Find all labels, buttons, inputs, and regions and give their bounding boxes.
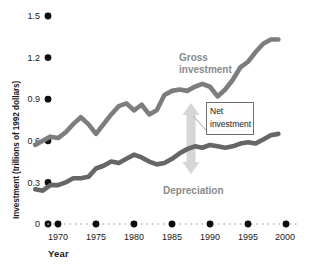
net-investment-arrow [183,103,200,174]
gross-investment-line [35,40,278,145]
chart-container: Investment (trillions of 1992 dollars) 1… [0,0,317,270]
y-axis-tick-dots [45,13,52,228]
x-axis-tick-dots [55,221,290,228]
depreciation-line [35,134,278,191]
chart-plot-svg [0,0,317,270]
